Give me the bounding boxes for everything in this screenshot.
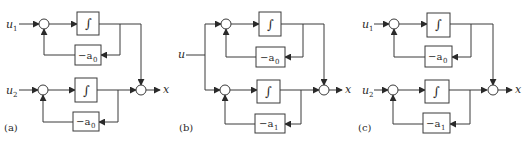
- summing-junction: [220, 85, 230, 95]
- block-diagram-figure: u 1 ∫ −a 0 u 2 ∫ −a 0: [0, 0, 531, 146]
- output-x-label: x: [345, 83, 352, 96]
- input-u-label: u: [178, 48, 185, 61]
- feedback-line: [450, 90, 470, 124]
- summing-junction: [389, 19, 399, 29]
- svg-text:2: 2: [369, 91, 373, 99]
- input-u2-label: u 2: [362, 84, 373, 99]
- input-u1-label: u 1: [6, 18, 17, 33]
- integral-symbol: ∫: [435, 17, 442, 32]
- integral-symbol: ∫: [433, 84, 440, 99]
- panel-caption: (c): [358, 122, 372, 133]
- feedback-line: [226, 29, 256, 57]
- svg-text:0: 0: [91, 122, 95, 130]
- svg-text:1: 1: [274, 124, 278, 132]
- svg-text:0: 0: [93, 56, 97, 64]
- feedback-line: [394, 29, 425, 57]
- feedback-line: [285, 24, 303, 57]
- summing-junction: [221, 19, 231, 29]
- feedback-line: [99, 90, 118, 122]
- summing-junction: [39, 19, 49, 29]
- input-u1-label: u 1: [362, 18, 373, 33]
- svg-text:2: 2: [13, 91, 17, 99]
- output-summing-junction: [488, 85, 498, 95]
- feedback-line: [101, 24, 120, 55]
- integral-symbol: ∫: [267, 17, 274, 32]
- svg-text:1: 1: [369, 25, 373, 33]
- summing-junction: [388, 85, 398, 95]
- svg-text:−a: −a: [259, 118, 273, 129]
- svg-text:−a: −a: [78, 50, 92, 61]
- integral-symbol: ∫: [265, 84, 272, 99]
- svg-text:0: 0: [443, 57, 447, 65]
- feedback-line: [393, 95, 423, 124]
- panel-caption: (a): [4, 122, 18, 133]
- feedback-line: [285, 90, 301, 124]
- panel-c: u 1 ∫ −a 0 u 2 ∫ −a 1: [358, 13, 522, 133]
- feedback-line: [43, 95, 73, 122]
- panel-b: u ∫ −a 0 ∫ −a 1 x (b): [178, 12, 352, 133]
- output-x-label: x: [515, 83, 522, 96]
- feedback-line: [225, 95, 255, 124]
- panel-caption: (b): [179, 122, 193, 133]
- svg-text:−a: −a: [428, 51, 442, 62]
- svg-text:1: 1: [441, 124, 445, 132]
- summing-junction: [38, 85, 48, 95]
- svg-text:−a: −a: [76, 116, 90, 127]
- integral-symbol: ∫: [83, 83, 90, 98]
- svg-text:0: 0: [275, 58, 279, 66]
- input-u2-label: u 2: [6, 84, 17, 99]
- output-x-label: x: [163, 83, 170, 96]
- output-summing-junction: [136, 85, 146, 95]
- svg-text:−a: −a: [260, 52, 274, 63]
- feedback-line: [452, 24, 471, 57]
- integral-symbol: ∫: [85, 16, 92, 31]
- svg-text:−a: −a: [426, 118, 440, 129]
- feedback-line: [44, 29, 75, 55]
- panel-a: u 1 ∫ −a 0 u 2 ∫ −a 0: [4, 12, 170, 133]
- output-summing-junction: [319, 85, 329, 95]
- svg-text:1: 1: [13, 25, 17, 33]
